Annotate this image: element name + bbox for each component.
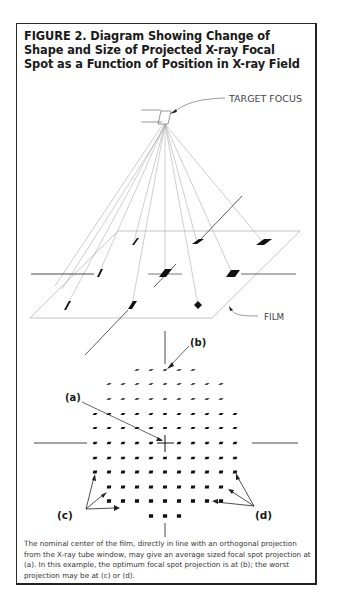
target-focus-label: TARGET FOCUS — [228, 93, 302, 104]
focal-spot-dot — [176, 383, 181, 385]
focal-spot-dot — [148, 398, 153, 400]
focal-spot-dot — [191, 457, 196, 460]
label-c: (c) — [57, 509, 73, 521]
focal-spot-dot — [177, 485, 181, 488]
focal-spot-dot — [148, 413, 153, 415]
focal-spot-dot — [107, 471, 112, 474]
focal-spot-dot — [205, 485, 209, 488]
focal-spot-dot — [204, 427, 209, 429]
focal-spot-dot — [190, 383, 195, 385]
focal-spot-dot — [190, 427, 195, 429]
focal-spot-dot — [93, 442, 98, 444]
focal-spot-dot — [219, 442, 224, 444]
focal-spot-dot — [135, 457, 140, 460]
focal-spot-dot — [121, 485, 125, 488]
xray-diagram: TARGET FOCUS — [0, 0, 337, 599]
focal-spot-dot — [92, 413, 97, 415]
figure-caption: The nominal center of the film, directly… — [24, 539, 312, 581]
focal-spot-dot — [204, 413, 209, 415]
focal-spot-dot — [176, 369, 182, 370]
focal-spot-dot — [134, 398, 139, 400]
focal-spot-dot — [121, 499, 125, 502]
focal-spot-dot — [205, 499, 209, 502]
focal-spot-dot — [232, 427, 237, 429]
focal-spot-dot — [204, 398, 209, 400]
focal-spot-dot — [232, 413, 237, 415]
focal-spot-dot — [93, 471, 98, 474]
focal-spot-dot — [135, 442, 140, 444]
focal-spot-dot — [191, 499, 195, 502]
focal-spot-dot — [149, 499, 153, 502]
focal-spot-dot — [176, 427, 181, 429]
focal-spot-dot — [149, 471, 154, 474]
focal-spot-dot — [176, 398, 181, 400]
focal-spot-dot — [163, 398, 168, 400]
focal-spot-dot — [120, 398, 125, 400]
focal-spot-dot — [204, 383, 209, 385]
focal-spot-dot — [134, 383, 139, 385]
focal-spot-dot — [148, 427, 153, 429]
target-focus: TARGET FOCUS — [141, 93, 302, 124]
focal-spot-dot — [149, 442, 154, 444]
focal-spot-dot — [163, 383, 168, 385]
film-label: FILM — [264, 312, 284, 322]
focal-spot-dot — [107, 442, 112, 444]
focal-spot-dot — [190, 398, 195, 400]
focal-spot-dot — [163, 471, 167, 474]
focal-spot-dot — [149, 514, 153, 518]
focal-spot-dot — [107, 457, 112, 460]
focal-spot-dot — [135, 485, 139, 488]
focal-spot-dot — [163, 413, 168, 415]
focal-spot-dot — [190, 369, 196, 370]
focal-spot-dot — [149, 485, 153, 488]
focal-spot-dot — [106, 383, 111, 385]
focal-spot-dot — [163, 369, 168, 370]
focal-spot-dot — [177, 457, 182, 460]
focal-spot-dot — [163, 457, 167, 460]
xray-beams — [55, 124, 263, 305]
focal-spot-dot — [120, 413, 125, 415]
focal-spot-dot — [121, 471, 126, 474]
focal-spot-dot — [177, 442, 182, 444]
focal-spot-dot — [148, 383, 153, 385]
focal-spot-dot — [233, 457, 238, 460]
focal-spot-dot — [163, 514, 167, 518]
focal-spot-grid: (b) (a) (c) (d) — [34, 331, 298, 537]
focal-spot-dot — [106, 427, 111, 429]
focal-spot-dot — [233, 471, 238, 474]
focal-spot-dot — [190, 413, 195, 415]
label-b: (b) — [190, 337, 206, 348]
label-a: (a) — [65, 392, 81, 403]
focal-spot-dot — [135, 499, 139, 502]
focal-spot-dot — [120, 383, 125, 385]
focal-spot-dot — [218, 413, 223, 415]
focal-spot-dot — [176, 413, 181, 415]
focal-spot-dot — [205, 442, 210, 444]
focal-spot-dot — [205, 471, 210, 474]
focal-spot-dot — [219, 485, 223, 488]
focal-spot-dot — [177, 514, 181, 518]
focal-spot-dot — [92, 427, 97, 429]
focal-spot-dot — [219, 457, 224, 460]
focal-spot-dot — [163, 485, 167, 488]
focal-spot-dot — [191, 471, 196, 474]
focal-spot-dot — [107, 485, 111, 488]
focal-spot-dot — [134, 369, 140, 370]
focal-spot-dot — [120, 427, 125, 429]
focal-spot-dot — [177, 499, 181, 502]
focal-spot-dot — [163, 427, 167, 429]
focal-spot-dot — [135, 471, 140, 474]
focal-spot-dot — [121, 442, 126, 444]
focal-spot-dot — [148, 369, 154, 370]
focal-spot-dot — [205, 457, 210, 460]
focal-spot-dot — [106, 398, 111, 400]
focal-spot-dot — [163, 499, 167, 502]
focal-spot-dot — [121, 457, 126, 460]
focal-spot-dot — [218, 427, 223, 429]
focal-spot-dot — [93, 457, 98, 460]
focal-spot-dot — [191, 442, 196, 444]
focal-spot-dot — [191, 485, 195, 488]
focal-spot-dot — [107, 499, 111, 502]
label-d: (d) — [255, 509, 272, 521]
focal-spot-dot — [218, 383, 223, 385]
